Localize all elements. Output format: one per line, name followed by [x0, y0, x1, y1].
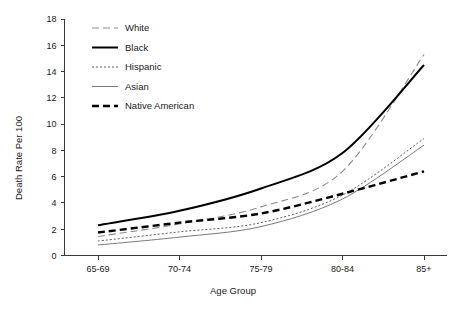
series-line-asian — [98, 145, 424, 245]
legend-label: Hispanic — [125, 61, 162, 72]
legend-item-native-american: Native American — [92, 100, 194, 111]
y-tick-label: 2 — [51, 225, 56, 235]
x-axis-title: Age Group — [210, 285, 256, 296]
y-axis-ticks: 024681012141618 — [46, 14, 64, 260]
line-chart: Death Rate Per 100 Age Group 02468101214… — [0, 0, 455, 313]
legend-item-asian: Asian — [92, 81, 149, 92]
x-tick-label: 65-69 — [86, 264, 109, 274]
y-tick-label: 14 — [46, 67, 56, 77]
y-tick-label: 18 — [46, 14, 56, 24]
x-axis-ticks: 65-6970-7475-7980-8485+ — [86, 256, 431, 274]
x-tick-label: 75-79 — [249, 264, 272, 274]
legend-item-hispanic: Hispanic — [92, 61, 162, 72]
legend-label: Black — [125, 42, 148, 53]
y-tick-label: 4 — [51, 198, 56, 208]
y-tick-label: 0 — [51, 251, 56, 261]
chart-container: Death Rate Per 100 Age Group 02468101214… — [0, 0, 455, 313]
series-line-native-american — [98, 171, 424, 232]
x-tick-label: 70-74 — [168, 264, 191, 274]
chart-legend: WhiteBlackHispanicAsianNative American — [92, 22, 194, 111]
legend-label: Native American — [125, 100, 194, 111]
x-tick-label: 85+ — [416, 264, 431, 274]
y-tick-label: 6 — [51, 172, 56, 182]
y-tick-label: 12 — [46, 93, 56, 103]
y-tick-label: 10 — [46, 119, 56, 129]
legend-label: White — [125, 22, 149, 33]
y-tick-label: 8 — [51, 146, 56, 156]
legend-item-black: Black — [92, 42, 148, 53]
legend-item-white: White — [92, 22, 149, 33]
y-tick-label: 16 — [46, 41, 56, 51]
y-axis-title: Death Rate Per 100 — [13, 116, 24, 200]
x-tick-label: 80-84 — [331, 264, 354, 274]
legend-label: Asian — [125, 81, 149, 92]
